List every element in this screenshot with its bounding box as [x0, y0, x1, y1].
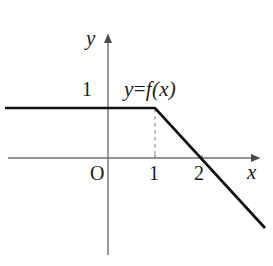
function-lhs: y — [124, 77, 134, 101]
function-rhs: f(x) — [146, 77, 176, 101]
y-axis-label: y — [86, 28, 95, 49]
function-curve — [5, 108, 265, 228]
graph-canvas — [0, 0, 273, 266]
equals-sign: = — [134, 77, 146, 101]
function-graph-figure: y x 1 1 2 O y=f(x) — [0, 0, 273, 266]
x-axis-label: x — [247, 162, 256, 183]
x-tick-label-1: 1 — [149, 163, 159, 183]
function-equation-label: y=f(x) — [124, 79, 176, 100]
origin-label: O — [90, 163, 104, 183]
y-tick-label-1: 1 — [82, 79, 92, 99]
x-tick-label-2: 2 — [194, 163, 204, 183]
